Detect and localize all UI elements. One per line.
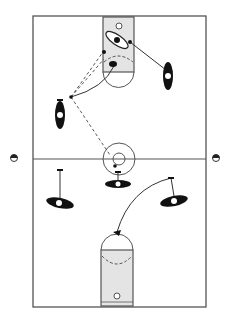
cut-line-right-wing xyxy=(130,42,166,70)
bottom-basket xyxy=(114,293,120,299)
cut-line-right-bottom xyxy=(171,178,174,196)
pass-line-to-paint-upper xyxy=(71,52,103,97)
right-side-marker-icon xyxy=(213,155,220,162)
position-dot-paint-right xyxy=(128,40,132,44)
court-svg xyxy=(0,0,232,318)
left-side-marker-icon xyxy=(11,155,18,162)
player-center-circle xyxy=(105,180,131,188)
screen-mark-right-bottom xyxy=(168,177,174,179)
screen-mark-center xyxy=(115,171,121,173)
screen-mark-left-top xyxy=(57,99,63,101)
pass-line-to-center xyxy=(71,97,110,155)
position-dot-paint-bottom xyxy=(109,61,117,67)
top-free-throw-arc xyxy=(103,72,134,87)
position-dot-paint-left xyxy=(102,50,106,54)
screen-mark-left-bottom xyxy=(57,169,63,171)
bottom-free-throw-arc xyxy=(101,234,133,250)
player-left-wing-top xyxy=(55,101,65,129)
position-dot-center xyxy=(113,164,117,168)
player-right-wing-top xyxy=(163,62,173,90)
position-dot-left-wing xyxy=(69,95,73,99)
top-basket xyxy=(116,23,122,29)
play-diagram xyxy=(0,0,232,318)
